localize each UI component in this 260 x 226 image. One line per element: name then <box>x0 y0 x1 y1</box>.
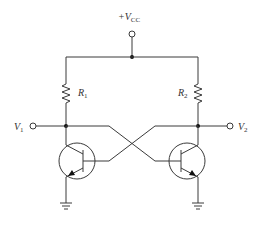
v1-label: V1 <box>14 121 24 134</box>
v2-label: V2 <box>238 121 248 134</box>
v1-terminal <box>30 123 36 129</box>
resistor-r1 <box>62 80 70 126</box>
circuit-schematic: +VCC R1 R2 V1 V2 <box>0 0 260 226</box>
vcc-terminal-circle <box>129 31 135 37</box>
q2-collector <box>181 145 198 154</box>
v2-terminal <box>227 123 233 129</box>
r2-label: R2 <box>177 87 188 100</box>
vcc-label: +VCC <box>118 11 141 24</box>
r1-label: R1 <box>77 87 88 100</box>
transistor-q1 <box>59 126 95 203</box>
ground-right-icon <box>192 203 204 209</box>
q1-collector <box>66 145 83 154</box>
transistor-q2 <box>169 126 205 203</box>
vcc-terminal <box>129 31 135 59</box>
ground-left-icon <box>60 203 72 209</box>
resistor-r2 <box>194 80 202 126</box>
